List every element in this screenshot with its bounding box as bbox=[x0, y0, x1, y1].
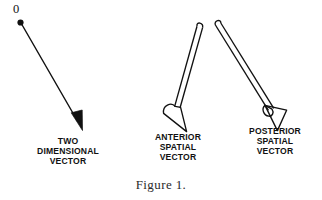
label-two-dimensional-vector: TWO DIMENSIONAL VECTOR bbox=[20, 136, 116, 167]
figure-container: 0 TWO DIMENSIONAL VECTOR ANTERIOR SPATIA… bbox=[0, 0, 322, 200]
posterior-spatial-vector-graphic bbox=[215, 20, 287, 130]
label-anterior-spatial-vector: ANTERIOR SPATIAL VECTOR bbox=[134, 132, 222, 163]
anterior-spatial-vector-graphic bbox=[163, 23, 202, 132]
two-dimensional-vector-shaft bbox=[21, 23, 78, 121]
label-posterior-spatial-vector: POSTERIOR SPATIAL VECTOR bbox=[230, 126, 320, 157]
posterior-tube-top-cap bbox=[215, 20, 221, 25]
anterior-cone-arrowhead-icon bbox=[163, 104, 186, 131]
vector-diagram-svg bbox=[0, 0, 322, 200]
label-line-3: VECTOR bbox=[230, 146, 320, 156]
label-line-2: SPATIAL bbox=[134, 142, 222, 152]
anterior-tube-left-rail bbox=[175, 26, 197, 106]
label-line-3: VECTOR bbox=[20, 156, 116, 166]
figure-caption: Figure 1. bbox=[0, 177, 322, 193]
two-dimensional-vector-graphic bbox=[17, 19, 82, 130]
solid-arrowhead-icon bbox=[71, 110, 82, 131]
posterior-tube-right-rail bbox=[221, 23, 274, 108]
label-line-2: DIMENSIONAL bbox=[20, 146, 116, 156]
label-line-1: TWO bbox=[20, 136, 116, 146]
label-line-1: POSTERIOR bbox=[230, 126, 320, 136]
anterior-tube-right-rail bbox=[180, 28, 203, 108]
origin-label: 0 bbox=[13, 2, 19, 17]
posterior-tube-left-rail bbox=[215, 25, 268, 110]
label-line-1: ANTERIOR bbox=[134, 132, 222, 142]
anterior-tube-top-cap bbox=[197, 23, 203, 28]
label-line-2: SPATIAL bbox=[230, 136, 320, 146]
label-line-3: VECTOR bbox=[134, 152, 222, 162]
